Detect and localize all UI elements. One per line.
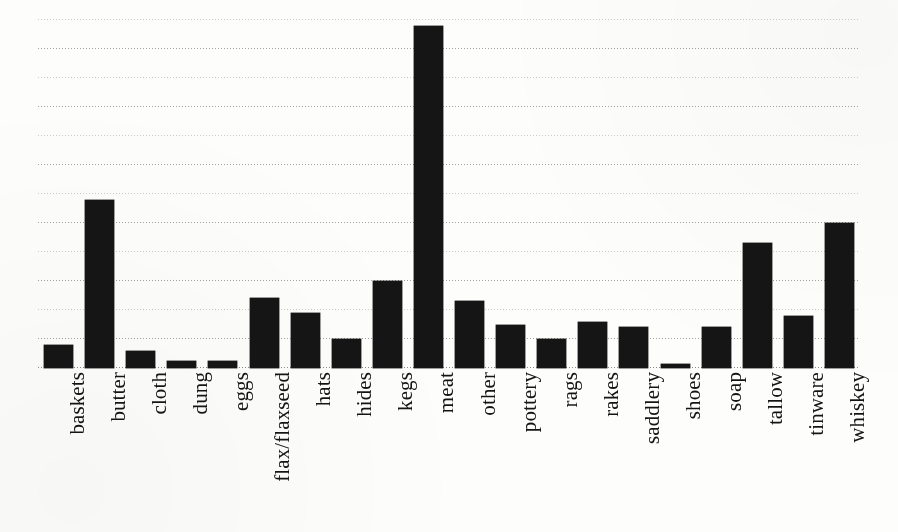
tick-label-saddlery: saddlery — [642, 372, 663, 444]
tick-label-dung: dung — [190, 372, 211, 414]
tick-label-soap: soap — [724, 372, 745, 411]
tick-label-hats: hats — [313, 372, 334, 406]
bar-tallow[interactable] — [743, 243, 772, 368]
x-axis-line — [38, 367, 860, 368]
bar-soap[interactable] — [702, 327, 731, 368]
plot-area — [38, 20, 860, 368]
tick-label-kegs: kegs — [395, 372, 416, 411]
bar-whiskey[interactable] — [825, 223, 854, 368]
bar-shoes[interactable] — [661, 364, 690, 368]
tick-label-meat: meat — [436, 372, 457, 413]
tick-label-whiskey: whiskey — [847, 372, 868, 443]
bar-baskets[interactable] — [44, 345, 73, 368]
tick-label-other: other — [478, 372, 499, 416]
bar-tinware[interactable] — [784, 316, 813, 368]
tick-label-butter: butter — [108, 372, 129, 422]
bar-cloth[interactable] — [126, 351, 155, 368]
tick-label-baskets: baskets — [67, 372, 88, 435]
gridline — [38, 193, 860, 194]
x-axis-tick-labels: basketsbutterclothdungeggsflax/flaxseedh… — [38, 372, 860, 530]
gridline — [38, 222, 860, 223]
tick-label-rakes: rakes — [601, 372, 622, 417]
tick-label-pottery: pottery — [519, 372, 540, 432]
bar-hats[interactable] — [291, 313, 320, 368]
bar-saddlery[interactable] — [619, 327, 648, 368]
tick-label-tinware: tinware — [806, 372, 827, 436]
bar-hides[interactable] — [332, 339, 361, 368]
gridline — [38, 280, 860, 281]
bar-kegs[interactable] — [373, 281, 402, 368]
tick-label-flax-flaxseed: flax/flaxseed — [272, 372, 293, 482]
bar-pottery[interactable] — [496, 325, 525, 369]
gridline — [38, 135, 860, 136]
gridline — [38, 48, 860, 49]
bar-meat[interactable] — [414, 26, 443, 368]
tick-label-shoes: shoes — [683, 372, 704, 419]
tick-label-cloth: cloth — [149, 372, 170, 415]
bar-dung[interactable] — [167, 361, 196, 368]
tick-label-hides: hides — [354, 372, 375, 417]
gridline — [38, 338, 860, 339]
bar-rags[interactable] — [537, 339, 566, 368]
gridline — [38, 19, 860, 20]
tick-label-rags: rags — [560, 372, 581, 407]
gridline — [38, 77, 860, 78]
gridline — [38, 309, 860, 310]
gridline — [38, 164, 860, 165]
tick-label-tallow: tallow — [765, 372, 786, 425]
chart-figure: basketsbutterclothdungeggsflax/flaxseedh… — [0, 0, 898, 532]
bar-butter[interactable] — [85, 200, 114, 368]
bar-eggs[interactable] — [208, 361, 237, 368]
bar-other[interactable] — [455, 301, 484, 368]
bar-flax-flaxseed[interactable] — [250, 298, 279, 368]
tick-label-eggs: eggs — [231, 372, 252, 411]
gridline — [38, 251, 860, 252]
bar-rakes[interactable] — [578, 322, 607, 368]
gridline — [38, 106, 860, 107]
